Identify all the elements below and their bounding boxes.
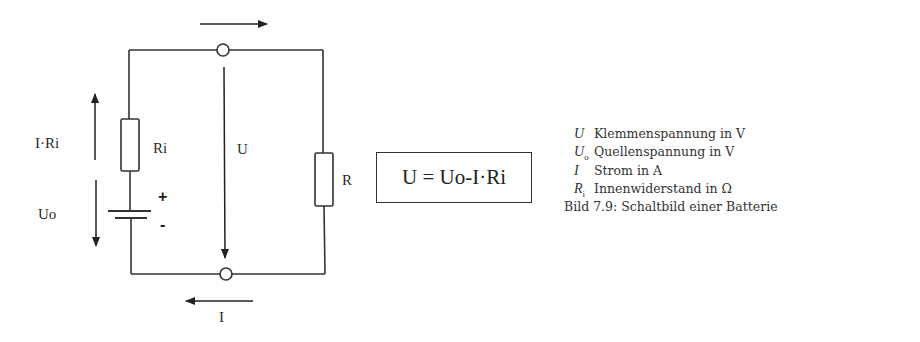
minus-sign: -	[160, 217, 165, 233]
legend-symbol: Ri	[564, 181, 594, 199]
legend-symbol: I	[564, 163, 594, 181]
terminal-voltage-arrow-down	[224, 67, 225, 258]
terminal-voltage-label: U	[237, 142, 248, 157]
figure-caption: Bild 7.9: Schaltbild einer Batterie	[564, 199, 778, 217]
formula-box: U = Uo-I·Ri	[376, 152, 532, 203]
internal-resistor-ri	[121, 119, 139, 171]
legend-description: Innenwiderstand in Ω	[594, 181, 732, 196]
right-branch-wire	[323, 50, 325, 274]
source-voltage-label: Uo	[38, 207, 56, 222]
top-terminal	[217, 44, 229, 56]
legend-item: U Klemmenspannung in V	[564, 126, 778, 144]
load-resistor-label: R	[342, 173, 352, 188]
legend-item: Uo Quellenspannung in V	[564, 144, 778, 162]
legend-description: Strom in A	[594, 163, 662, 178]
voltage-drop-label: I·Ri	[35, 136, 59, 151]
bottom-terminal	[220, 268, 232, 280]
legend-description: Klemmenspannung in V	[594, 126, 745, 141]
battery-symbol	[108, 211, 151, 218]
current-label: I	[219, 310, 224, 325]
load-resistor-r	[315, 153, 333, 206]
left-branch-wire	[129, 50, 131, 274]
formula-text: U = Uo-I·Ri	[402, 165, 506, 190]
legend: U Klemmenspannung in V Uo Quellenspannun…	[564, 126, 778, 217]
legend-item: I Strom in A	[564, 163, 778, 181]
internal-resistor-label: Ri	[153, 141, 167, 156]
plus-sign: +	[158, 189, 167, 205]
legend-symbol: U	[564, 126, 594, 144]
legend-item: Ri Innenwiderstand in Ω	[564, 181, 778, 199]
legend-symbol: Uo	[564, 144, 594, 162]
legend-description: Quellenspannung in V	[594, 144, 734, 159]
